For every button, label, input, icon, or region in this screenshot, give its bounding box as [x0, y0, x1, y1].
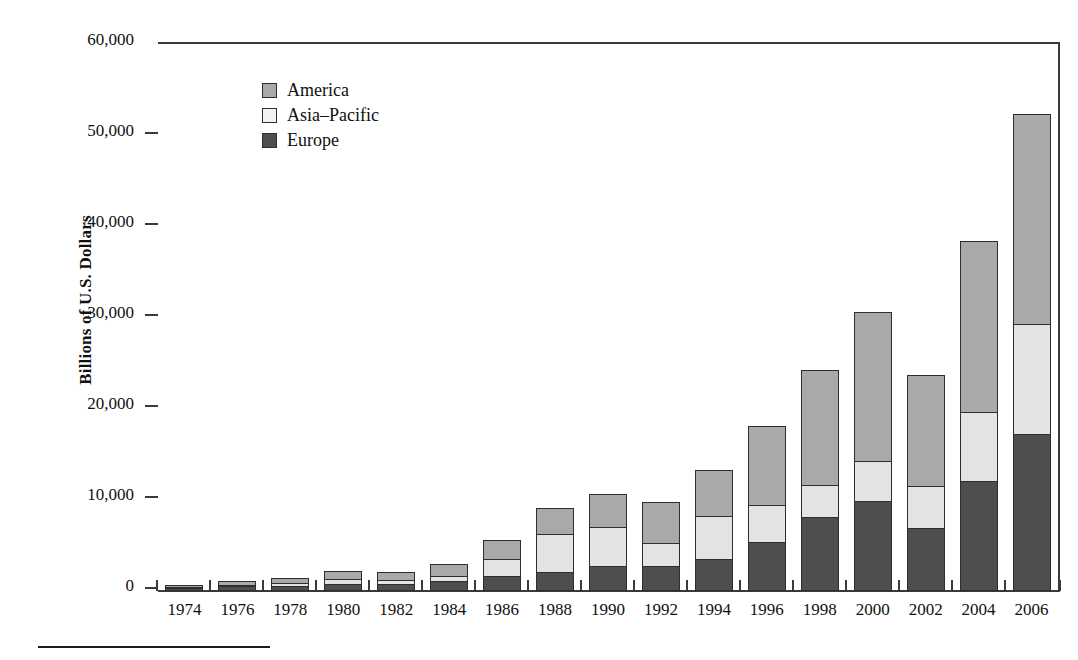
bar-stack [271, 578, 309, 590]
x-tick-mark [368, 580, 370, 591]
bar-stack [907, 375, 945, 590]
bar-segment-america[interactable] [1013, 114, 1051, 325]
bar-segment-europe[interactable] [1013, 434, 1051, 591]
bar-stack [218, 581, 256, 590]
bar-segment-europe[interactable] [165, 588, 203, 591]
y-tick-label: 40,000 [87, 212, 134, 232]
x-tick-mark [1059, 580, 1061, 591]
bar-segment-america[interactable] [854, 312, 892, 462]
bar-segment-europe[interactable] [907, 528, 945, 591]
y-tick-label: 50,000 [87, 121, 134, 141]
x-axis-label: 2006 [1005, 600, 1058, 620]
bar-segment-europe[interactable] [536, 572, 574, 591]
footnote-divider [38, 646, 270, 648]
y-tick-label: 0 [126, 576, 135, 596]
y-tick-mark [145, 496, 158, 498]
y-tick-mark [145, 223, 158, 225]
x-axis-label: 1984 [423, 600, 476, 620]
chart-figure: Billions of U.S. Dollars 010,00020,00030… [0, 0, 1078, 660]
bar-segment-america[interactable] [960, 241, 998, 413]
bar-segment-america[interactable] [536, 508, 574, 534]
bar-stack [430, 564, 468, 590]
bar-segment-america[interactable] [907, 375, 945, 488]
bar-segment-america[interactable] [748, 426, 786, 506]
bar-segment-europe[interactable] [377, 584, 415, 591]
legend-item[interactable]: America [262, 78, 379, 103]
bar-segment-asia[interactable] [483, 559, 521, 576]
legend-label: America [287, 80, 349, 101]
bar-segment-europe[interactable] [695, 559, 733, 591]
bar-segment-asia[interactable] [960, 412, 998, 482]
y-tick-mark [145, 405, 158, 407]
x-tick-mark [633, 580, 635, 591]
bar-segment-europe[interactable] [642, 566, 680, 591]
bar-stack [536, 508, 574, 590]
x-axis-label: 1994 [687, 600, 740, 620]
x-tick-mark [262, 580, 264, 591]
x-axis-label: 1992 [634, 600, 687, 620]
bar-segment-asia[interactable] [589, 527, 627, 568]
bar-segment-america[interactable] [642, 502, 680, 544]
x-axis-label: 2000 [846, 600, 899, 620]
legend-swatch-america [262, 83, 277, 98]
x-axis-label: 1982 [370, 600, 423, 620]
bar-segment-america[interactable] [801, 370, 839, 486]
x-axis-label: 1998 [793, 600, 846, 620]
legend-swatch-europe [262, 133, 277, 148]
bar-segment-europe[interactable] [271, 586, 309, 591]
y-tick-mark [145, 132, 158, 134]
x-tick-mark [739, 580, 741, 591]
x-axis-label: 1974 [158, 600, 211, 620]
x-tick-mark [527, 580, 529, 591]
x-tick-mark [156, 580, 158, 591]
bar-segment-europe[interactable] [589, 566, 627, 591]
bar-segment-europe[interactable] [324, 584, 362, 591]
bar-stack [165, 585, 203, 590]
bar-segment-asia[interactable] [907, 486, 945, 529]
x-axis-label: 1996 [740, 600, 793, 620]
legend-item[interactable]: Asia–Pacific [262, 103, 379, 128]
x-axis-label: 2002 [899, 600, 952, 620]
bar-segment-america[interactable] [695, 470, 733, 516]
x-tick-mark [792, 580, 794, 591]
x-axis-label: 1990 [582, 600, 635, 620]
x-axis-label: 2004 [952, 600, 1005, 620]
x-tick-mark [209, 580, 211, 591]
y-tick-label: 20,000 [87, 394, 134, 414]
x-tick-mark [474, 580, 476, 591]
bar-segment-europe[interactable] [483, 576, 521, 591]
bar-stack [377, 572, 415, 590]
bar-segment-europe[interactable] [801, 517, 839, 591]
y-tick-label: 30,000 [87, 303, 134, 323]
bar-stack [483, 540, 521, 590]
bar-stack [1013, 114, 1051, 590]
y-tick-label: 60,000 [87, 30, 134, 50]
x-axis-label: 1978 [264, 600, 317, 620]
bar-segment-europe[interactable] [430, 581, 468, 591]
x-axis-label: 1988 [529, 600, 582, 620]
bar-segment-europe[interactable] [854, 501, 892, 591]
bar-segment-europe[interactable] [218, 586, 256, 591]
bar-segment-asia[interactable] [854, 461, 892, 502]
legend-swatch-asia [262, 108, 277, 123]
bar-segment-europe[interactable] [960, 481, 998, 591]
bar-segment-asia[interactable] [642, 543, 680, 567]
bar-segment-asia[interactable] [536, 534, 574, 573]
bar-segment-asia[interactable] [748, 505, 786, 543]
bar-segment-europe[interactable] [748, 542, 786, 591]
y-tick-mark [145, 314, 158, 316]
bar-stack [589, 494, 627, 590]
bar-segment-asia[interactable] [695, 516, 733, 561]
bar-segment-asia[interactable] [1013, 324, 1051, 434]
bar-stack [854, 312, 892, 590]
x-tick-mark [421, 580, 423, 591]
bar-segment-america[interactable] [483, 540, 521, 560]
bar-stack [960, 241, 998, 590]
x-tick-mark [898, 580, 900, 591]
x-tick-mark [580, 580, 582, 591]
bar-stack [695, 470, 733, 590]
bar-segment-asia[interactable] [801, 485, 839, 519]
x-tick-mark [951, 580, 953, 591]
bar-segment-america[interactable] [589, 494, 627, 528]
legend-item[interactable]: Europe [262, 128, 379, 153]
